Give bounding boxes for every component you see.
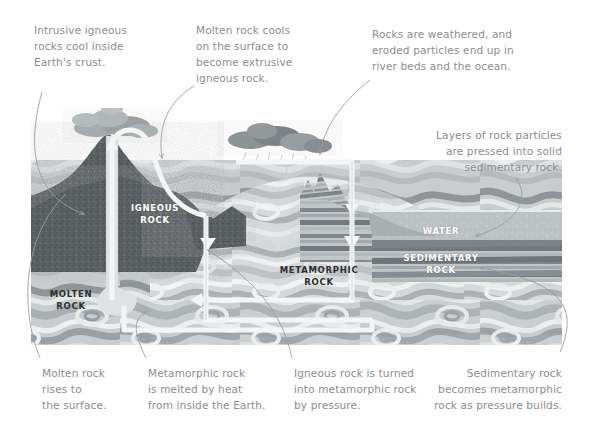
ash-plume [72, 95, 158, 138]
weathering-erosion-note: Rocks are weathered, and eroded particle… [372, 26, 578, 74]
sedimentary-rock-label: SEDIMENTARY ROCK [396, 252, 486, 276]
sedimentary-formation-note: Layers of rock particles are pressed int… [384, 127, 562, 175]
igneous-rock-label: IGNEOUS ROCK [124, 202, 186, 226]
water-label: WATER [415, 225, 467, 237]
rock-cycle-diagram: IGNEOUS ROCK MOLTEN ROCK METAMORPHIC ROC… [0, 0, 592, 443]
extrusive-igneous-note: Molten rock cools on the surface to beco… [196, 22, 326, 86]
leader-extrusive [161, 86, 194, 158]
sedimentary-to-metamorphic-note: Sedimentary rock becomes metamorphic roc… [398, 365, 562, 413]
waterline [372, 210, 562, 212]
molten-rock-label: MOLTEN ROCK [40, 288, 102, 312]
molten-rises-note: Molten rock rises to the surface. [42, 365, 142, 413]
intrusive-igneous-note: Intrusive igneous rocks cool inside Eart… [34, 22, 174, 70]
rain-cloud [228, 123, 332, 153]
metamorphic-melts-note: Metamorphic rock is melted by heat from … [148, 365, 300, 413]
metamorphic-rock-label: METAMORPHIC ROCK [278, 264, 360, 288]
